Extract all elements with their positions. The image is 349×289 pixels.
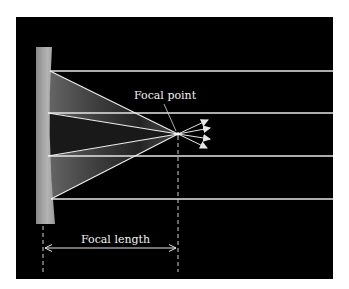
- focal-point-label: Focal point: [134, 89, 197, 102]
- focal-length-label: Focal length: [81, 233, 150, 246]
- concave-mirror-diagram: Focal point Focal length: [0, 0, 349, 289]
- focal-point-marker: [176, 132, 180, 136]
